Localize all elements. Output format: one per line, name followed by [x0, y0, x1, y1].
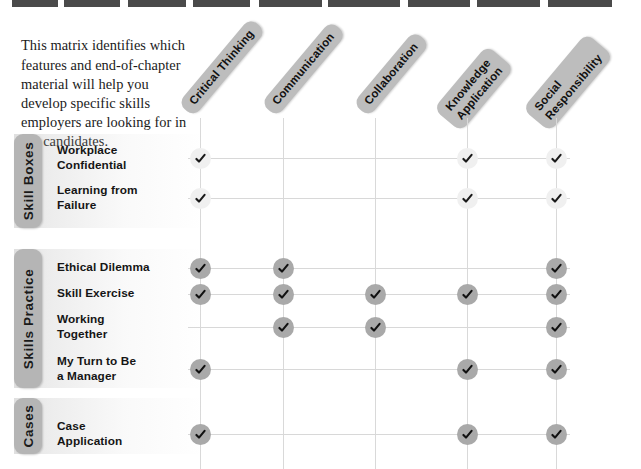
row-rule-workplace-confidential: [188, 158, 570, 159]
band-notch-8: [540, 0, 548, 7]
cell-check-workplace-confidential--critical-thinking: [190, 148, 211, 169]
column-header-label: Critical Thinking: [187, 28, 257, 108]
check-icon: [369, 288, 382, 301]
cell-check-working-together--social-responsibility: [546, 317, 567, 338]
check-icon: [461, 152, 474, 165]
check-icon: [194, 428, 207, 441]
row-label-skill-exercise: Skill Exercise: [57, 286, 187, 301]
check-icon: [277, 321, 290, 334]
cell-check-skill-exercise--social-responsibility: [546, 284, 567, 305]
column-header-collaboration: Collaboration: [353, 31, 430, 117]
row-label-working-together: WorkingTogether: [57, 312, 187, 341]
check-icon: [277, 288, 290, 301]
cell-check-skill-exercise--collaboration: [365, 284, 386, 305]
band-notch-7: [470, 0, 477, 7]
row-label-line: a Manager: [57, 369, 187, 384]
cell-check-working-together--collaboration: [365, 317, 386, 338]
group-tab-label: Cases: [21, 405, 36, 448]
row-label-workplace-confidential: WorkplaceConfidential: [57, 143, 187, 172]
row-label-line: Together: [57, 327, 187, 342]
cell-check-case-application--knowledge-application: [457, 424, 478, 445]
cell-check-learning-from-failure--knowledge-application: [457, 188, 478, 209]
row-label-case-application: CaseApplication: [57, 419, 187, 448]
group-tab-label: Skill Boxes: [21, 142, 36, 221]
check-icon: [461, 363, 474, 376]
band-notch-3: [186, 0, 193, 7]
top-cropped-band: [0, 0, 641, 7]
row-label-line: Learning from: [57, 183, 187, 198]
check-icon: [550, 363, 563, 376]
row-rule-learning-from-failure: [188, 198, 570, 199]
row-label-line: Case: [57, 419, 187, 434]
cell-check-learning-from-failure--social-responsibility: [546, 188, 567, 209]
cell-check-ethical-dilemma--critical-thinking: [190, 258, 211, 279]
cell-check-skill-exercise--critical-thinking: [190, 284, 211, 305]
row-label-line: Ethical Dilemma: [57, 260, 187, 275]
band-notch-1: [58, 0, 64, 7]
row-label-learning-from-failure: Learning fromFailure: [57, 183, 187, 212]
cell-check-my-turn-to-be-a-manager--knowledge-application: [457, 359, 478, 380]
row-label-line: Failure: [57, 198, 187, 213]
check-icon: [461, 192, 474, 205]
check-icon: [461, 288, 474, 301]
group-tab-skill-boxes: Skill Boxes: [14, 134, 42, 228]
cell-check-skill-exercise--knowledge-application: [457, 284, 478, 305]
column-header-label: Collaboration: [362, 40, 421, 107]
cell-check-workplace-confidential--social-responsibility: [546, 148, 567, 169]
check-icon: [194, 262, 207, 275]
column-header-communication: Communication: [261, 21, 346, 117]
column-header-label: Communication: [270, 31, 337, 108]
check-icon: [461, 428, 474, 441]
cell-check-learning-from-failure--critical-thinking: [190, 188, 211, 209]
group-tab-cases: Cases: [14, 398, 42, 454]
check-icon: [550, 321, 563, 334]
row-label-line: My Turn to Be: [57, 354, 187, 369]
row-label-ethical-dilemma: Ethical Dilemma: [57, 260, 187, 275]
band-notch-2: [120, 0, 128, 7]
cell-check-ethical-dilemma--communication: [273, 258, 294, 279]
group-tab-label: Skills Practice: [21, 268, 36, 369]
check-icon: [550, 152, 563, 165]
check-icon: [550, 428, 563, 441]
cell-check-my-turn-to-be-a-manager--critical-thinking: [190, 359, 211, 380]
check-icon: [194, 192, 207, 205]
row-rule-case-application: [188, 434, 570, 435]
row-label-line: Working: [57, 312, 187, 327]
cell-check-my-turn-to-be-a-manager--social-responsibility: [546, 359, 567, 380]
check-icon: [194, 152, 207, 165]
column-header-knowledge-application: KnowledgeApplication: [433, 45, 514, 132]
check-icon: [550, 262, 563, 275]
check-icon: [194, 288, 207, 301]
row-label-my-turn-to-be-a-manager: My Turn to Bea Manager: [57, 354, 187, 383]
check-icon: [277, 262, 290, 275]
check-icon: [369, 321, 382, 334]
cell-check-case-application--critical-thinking: [190, 424, 211, 445]
row-label-line: Skill Exercise: [57, 286, 187, 301]
band-notch-0: [0, 0, 12, 7]
cell-check-working-together--communication: [273, 317, 294, 338]
group-tab-skills-practice: Skills Practice: [14, 249, 42, 388]
row-rule-ethical-dilemma: [188, 268, 570, 269]
band-notch-6: [400, 0, 408, 7]
check-icon: [550, 192, 563, 205]
column-header-social-responsibility: SocialResponsibility: [522, 33, 613, 132]
cell-check-case-application--social-responsibility: [546, 424, 567, 445]
row-label-line: Workplace: [57, 143, 187, 158]
skills-matrix: This matrix identifies which features an…: [0, 0, 641, 469]
intro-paragraph: This matrix identifies which features an…: [21, 36, 196, 151]
row-rule-my-turn-to-be-a-manager: [188, 369, 570, 370]
cell-check-workplace-confidential--knowledge-application: [457, 148, 478, 169]
cell-check-ethical-dilemma--social-responsibility: [546, 258, 567, 279]
band-notch-9: [612, 0, 641, 7]
check-icon: [194, 363, 207, 376]
check-icon: [550, 288, 563, 301]
cell-check-skill-exercise--communication: [273, 284, 294, 305]
band-notch-4: [250, 0, 259, 7]
row-label-line: Confidential: [57, 158, 187, 173]
band-notch-5: [322, 0, 328, 7]
row-label-line: Application: [57, 434, 187, 449]
